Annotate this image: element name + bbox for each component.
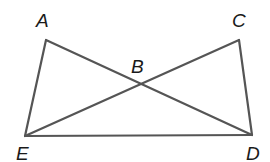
segment-ED: [25, 135, 252, 136]
point-label-d: D: [246, 143, 260, 162]
point-label-b: B: [131, 56, 144, 77]
point-label-c: C: [232, 10, 246, 31]
point-label-a: A: [35, 10, 49, 31]
segment-CD: [239, 40, 252, 135]
segment-AE: [25, 40, 46, 136]
segment-CE: [25, 40, 239, 136]
segment-AD: [46, 40, 252, 135]
point-label-e: E: [16, 143, 29, 162]
geometry-figure: A B C D E: [0, 0, 270, 162]
